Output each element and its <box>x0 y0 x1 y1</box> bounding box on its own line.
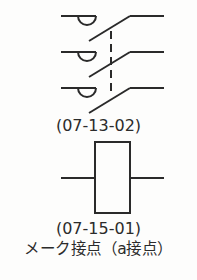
symbol-code-label-2: (07-15-01) <box>0 220 197 238</box>
half-circle-actuator-icon <box>78 88 96 97</box>
symbol-caption: メーク接点（a接点） <box>0 240 197 258</box>
relay-box-symbol <box>61 142 164 213</box>
half-circle-actuator-icon <box>78 52 96 61</box>
symbol-code-label-1: (07-13-02) <box>0 117 197 135</box>
half-circle-actuator-icon <box>78 16 96 25</box>
switch-pole-2 <box>61 52 164 77</box>
switch-pole-1 <box>61 16 164 41</box>
switch-pole-3 <box>61 88 164 113</box>
diagram-canvas <box>0 0 197 280</box>
